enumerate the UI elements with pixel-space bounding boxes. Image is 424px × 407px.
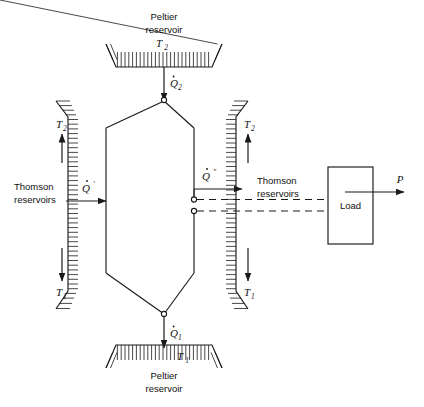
peltier-reservoir-bottom: T 1 Peltier reservoir	[106, 345, 222, 394]
thomson-right-name-line2: reservoirs	[257, 188, 299, 199]
thomson-left-hatching	[56, 101, 78, 309]
thomson-right-name-line1: Thomson	[257, 175, 297, 186]
thomson-left-temp-top: T	[56, 118, 63, 130]
peltier-bottom-temperature-subscript: 1	[185, 356, 189, 365]
q2-symbol: Q	[170, 77, 178, 89]
thomson-reservoir-right: T 2 T 1 Thomson reservoirs	[226, 101, 299, 309]
element-terminal-upper-right	[191, 197, 196, 202]
load-label: Load	[340, 200, 361, 211]
thermoelectric-element	[106, 97, 197, 316]
thomson-right-temp-top-subscript: 2	[251, 124, 255, 133]
q-double-prime-mark: ″	[213, 168, 217, 177]
peltier-reservoir-top: Peltier reservoir T 2	[0, 0, 222, 67]
element-terminal-bottom	[161, 311, 166, 316]
peltier-bottom-name-line2: reservoir	[146, 383, 183, 394]
peltier-top-name-line2: reservoir	[146, 24, 183, 35]
q-prime-mark: ′	[93, 180, 95, 189]
q1-overdot	[173, 326, 175, 328]
peltier-bottom-name-line1: Peltier	[151, 370, 178, 381]
peltier-bottom-hatching	[106, 345, 222, 368]
thomson-left-name-line1: Thomson	[14, 181, 54, 192]
peltier-top-temperature-subscript: 2	[164, 43, 168, 52]
thomson-left-name-line2: reservoirs	[14, 194, 56, 205]
peltier-top-hatching	[0, 0, 222, 67]
figure-canvas: Peltier reservoir T 2 Q 2	[0, 0, 424, 407]
power-output: P	[345, 173, 404, 192]
element-edge-bottom-left	[106, 273, 164, 314]
peltier-top-temperature: T	[156, 37, 163, 49]
q-prime-overdot	[86, 180, 88, 182]
thomson-right-wall-outline	[236, 101, 248, 309]
peltier-top-name-line1: Peltier	[151, 11, 178, 22]
element-edge-top-right	[164, 101, 194, 128]
peltier-bottom-temperature: T	[177, 350, 184, 362]
thomson-reservoir-left: T 2 T 1 Thomson reservoirs	[14, 101, 78, 309]
q2-subscript: 2	[178, 83, 182, 92]
diagram-svg: Peltier reservoir T 2 Q 2	[0, 0, 424, 407]
element-edge-top-left	[106, 101, 164, 128]
heat-flow-q-prime: Q ′	[66, 180, 106, 201]
electrical-leads	[197, 200, 328, 212]
q-prime-symbol: Q	[82, 182, 90, 194]
heat-flow-q2: Q 2	[164, 67, 182, 101]
thomson-right-temp-top: T	[244, 118, 251, 130]
q2-overdot	[173, 76, 175, 78]
element-edge-bottom-right	[164, 273, 194, 314]
thomson-left-temp-bottom: T	[56, 286, 63, 298]
q-double-prime-overdot	[206, 168, 208, 170]
q-double-prime-symbol: Q	[202, 170, 210, 182]
q1-subscript: 1	[178, 333, 182, 342]
thomson-left-temp-bottom-subscript: 1	[63, 292, 67, 301]
thomson-right-temp-bottom-subscript: 1	[251, 292, 255, 301]
element-terminal-top	[161, 97, 166, 102]
q1-symbol: Q	[170, 327, 178, 339]
heat-flow-q1: Q 1	[164, 317, 182, 348]
thomson-right-temp-bottom: T	[244, 286, 251, 298]
element-terminal-lower-right	[191, 208, 196, 213]
load-block: Load	[328, 167, 373, 244]
power-symbol: P	[396, 173, 404, 185]
thomson-left-temp-top-subscript: 2	[63, 124, 67, 133]
thomson-right-hatching	[226, 101, 248, 309]
